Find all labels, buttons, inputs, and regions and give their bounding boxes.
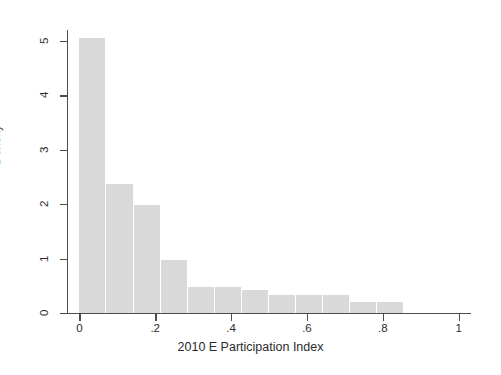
y-axis-tick-label: 4 xyxy=(39,86,51,104)
histogram-bars xyxy=(68,30,470,313)
histogram-bar xyxy=(242,290,269,313)
histogram-bar xyxy=(161,260,188,313)
y-axis-tick-label: 0 xyxy=(39,304,51,322)
histogram-bar xyxy=(134,205,161,313)
y-axis-tick-label: 5 xyxy=(39,32,51,50)
y-axis-line xyxy=(67,30,68,314)
y-axis-tick xyxy=(60,95,67,96)
x-axis-tick xyxy=(383,314,384,321)
x-axis-tick-label: 1 xyxy=(444,322,474,334)
x-axis-tick xyxy=(231,314,232,321)
histogram-bar xyxy=(377,302,404,313)
histogram-figure: 012345 0.2.4.6.81 Density 2010 E Partici… xyxy=(0,0,501,375)
x-axis-tick xyxy=(79,314,80,321)
histogram-bar xyxy=(188,287,215,313)
histogram-bar xyxy=(296,295,323,313)
y-axis-tick xyxy=(60,150,67,151)
x-axis-line xyxy=(67,313,471,314)
y-axis-tick xyxy=(60,313,67,314)
x-axis-tick xyxy=(459,314,460,321)
y-axis-tick-label: 2 xyxy=(39,195,51,213)
plot-area xyxy=(68,30,470,313)
x-axis-title: 2010 E Participation Index xyxy=(0,340,501,355)
y-axis-tick xyxy=(60,41,67,42)
x-axis-tick-label: .8 xyxy=(368,322,398,334)
y-axis-tick xyxy=(60,259,67,260)
y-axis-title: Density xyxy=(0,85,3,205)
x-axis-tick xyxy=(155,314,156,321)
histogram-bar xyxy=(106,184,133,313)
histogram-bar xyxy=(215,287,242,313)
x-axis-tick-label: .4 xyxy=(216,322,246,334)
histogram-bar xyxy=(269,295,296,313)
x-axis-tick-label: .2 xyxy=(140,322,170,334)
y-axis-tick xyxy=(60,204,67,205)
y-axis-tick-label: 1 xyxy=(39,249,51,267)
histogram-bar xyxy=(79,38,106,313)
histogram-bar xyxy=(323,295,350,313)
y-axis-tick-label: 3 xyxy=(39,140,51,158)
x-axis-tick-label: 0 xyxy=(64,322,94,334)
x-axis-tick xyxy=(307,314,308,321)
x-axis-tick-label: .6 xyxy=(292,322,322,334)
histogram-bar xyxy=(350,302,377,313)
